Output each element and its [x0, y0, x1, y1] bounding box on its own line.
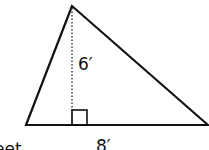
partial-caption: feet: [0, 139, 22, 150]
right-angle-marker: [72, 110, 87, 125]
triangle-diagram: 6′ 8′ feet: [0, 0, 209, 150]
triangle: [26, 6, 208, 125]
height-label: 6′: [78, 54, 93, 74]
base-label: 8′: [96, 136, 111, 150]
